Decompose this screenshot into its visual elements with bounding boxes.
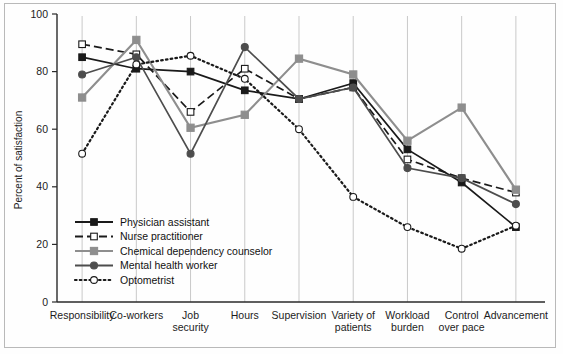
point-4-1 bbox=[133, 61, 140, 68]
y-tick-label-80: 80 bbox=[36, 65, 48, 77]
point-3-7 bbox=[458, 175, 465, 182]
point-2-2 bbox=[187, 124, 194, 131]
point-4-7 bbox=[458, 245, 465, 252]
x-tick-label-7: over pace bbox=[439, 321, 485, 333]
chart-page: 020406080100Percent of satisfactionRespo… bbox=[0, 0, 563, 354]
point-2-8 bbox=[512, 186, 519, 193]
point-2-3 bbox=[241, 111, 248, 118]
x-tick-label-1: Co-workers bbox=[109, 309, 163, 321]
legend-marker-4 bbox=[91, 277, 98, 284]
legend-label-3: Mental health worker bbox=[120, 259, 218, 271]
x-tick-label-5: patients bbox=[335, 321, 372, 333]
x-tick-label-8: Advancement bbox=[484, 309, 548, 321]
x-tick-label-2: Job bbox=[182, 309, 199, 321]
legend-marker-0 bbox=[91, 219, 98, 226]
point-0-0 bbox=[79, 54, 86, 61]
point-4-4 bbox=[296, 126, 303, 133]
point-3-6 bbox=[404, 165, 411, 172]
point-0-3 bbox=[241, 87, 248, 94]
point-2-7 bbox=[458, 104, 465, 111]
x-tick-label-2: security bbox=[172, 321, 209, 333]
point-3-2 bbox=[187, 150, 194, 157]
point-1-3 bbox=[241, 65, 248, 72]
point-1-6 bbox=[404, 156, 411, 163]
point-4-8 bbox=[512, 222, 519, 229]
x-tick-label-6: Workload bbox=[385, 309, 429, 321]
x-tick-label-3: Hours bbox=[231, 309, 259, 321]
x-tick-label-6: burden bbox=[391, 321, 424, 333]
point-3-4 bbox=[296, 95, 303, 102]
y-tick-label-20: 20 bbox=[36, 238, 48, 250]
legend-label-0: Physician assistant bbox=[120, 216, 209, 228]
chart-svg: 020406080100Percent of satisfactionRespo… bbox=[0, 0, 563, 354]
y-axis-title: Percent of satisfaction bbox=[13, 111, 24, 209]
point-2-6 bbox=[404, 137, 411, 144]
y-tick-label-60: 60 bbox=[36, 123, 48, 135]
point-4-5 bbox=[350, 193, 357, 200]
point-3-5 bbox=[350, 84, 357, 91]
x-tick-label-4: Supervision bbox=[272, 309, 327, 321]
point-3-8 bbox=[512, 201, 519, 208]
point-3-1 bbox=[133, 54, 140, 61]
point-2-4 bbox=[295, 55, 302, 62]
x-tick-label-0: Responsibility bbox=[50, 309, 116, 321]
point-4-2 bbox=[187, 52, 194, 59]
x-tick-label-7: Control bbox=[445, 309, 479, 321]
point-4-3 bbox=[241, 75, 248, 82]
x-tick-label-5: Variety of bbox=[331, 309, 375, 321]
legend-marker-3 bbox=[91, 262, 98, 269]
y-tick-label-100: 100 bbox=[30, 8, 48, 20]
legend-label-4: Optometrist bbox=[120, 274, 174, 286]
point-3-3 bbox=[241, 44, 248, 51]
y-tick-label-0: 0 bbox=[42, 296, 48, 308]
point-3-0 bbox=[79, 71, 86, 78]
point-0-2 bbox=[187, 68, 194, 75]
point-2-0 bbox=[79, 94, 86, 101]
point-4-6 bbox=[404, 224, 411, 231]
y-tick-label-40: 40 bbox=[36, 180, 48, 192]
legend-label-1: Nurse practitioner bbox=[120, 230, 203, 242]
point-1-0 bbox=[79, 41, 86, 48]
point-4-0 bbox=[79, 150, 86, 157]
point-1-2 bbox=[187, 109, 194, 116]
legend-marker-1 bbox=[91, 233, 98, 240]
point-2-5 bbox=[350, 71, 357, 78]
legend-label-2: Chemical dependency counselor bbox=[120, 245, 273, 257]
line-chart: 020406080100Percent of satisfactionRespo… bbox=[0, 0, 563, 354]
point-2-1 bbox=[133, 36, 140, 43]
point-0-6 bbox=[404, 146, 411, 153]
legend-marker-2 bbox=[90, 247, 97, 254]
